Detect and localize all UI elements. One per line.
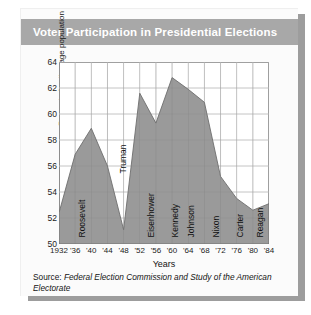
y-tick-label: 64 [37,58,57,67]
x-axis-label: Years [59,259,269,269]
y-tick-label: 60 [37,110,57,119]
x-tick-label: '56 [151,247,161,255]
x-tick-label: '36 [70,247,80,255]
x-tick-label: 1932 [50,247,68,255]
y-tick-label: 52 [37,214,57,223]
source-label: Source: [33,272,62,282]
president-label: Roosevelt [78,200,87,238]
x-tick-label: '80 [248,247,258,255]
president-label: Eisenhower [147,193,156,237]
x-axis-ticks: 1932'36'40'44'48'52'56'60'64'68'72'76'80… [59,247,269,259]
chart-card: Voter Participation in Presidential Elec… [20,8,298,296]
x-tick-label: '72 [215,247,225,255]
plot-wrapper: RooseveltTrumanEisenhowerKennedyJohnsonC… [59,62,269,244]
source-note: Source: Federal Election Commission and … [33,272,283,294]
x-tick-label: '60 [167,247,177,255]
president-label: Johnson [187,205,196,237]
y-tick-label: 56 [37,162,57,171]
x-tick-label: '84 [264,247,274,255]
x-tick-label: '44 [102,247,112,255]
president-label: Truman [118,145,127,174]
x-tick-label: '76 [231,247,241,255]
y-tick-label: 54 [37,188,57,197]
president-label: Reagan [256,208,265,238]
x-tick-label: '64 [183,247,193,255]
source-body: Federal Election Commission and Study of… [33,272,272,293]
x-tick-label: '48 [118,247,128,255]
x-tick-label: '52 [135,247,145,255]
president-label: Nixon [211,216,220,238]
y-tick-label: 58 [37,136,57,145]
chart-figure: Voter Participation in Presidential Elec… [0,0,311,315]
y-tick-label: 62 [37,84,57,93]
y-axis-ticks: 5052545658606264 [33,62,57,244]
x-tick-label: '68 [199,247,209,255]
president-label: Kennedy [171,204,180,238]
president-label: Carter [235,214,244,238]
x-tick-label: '40 [86,247,96,255]
